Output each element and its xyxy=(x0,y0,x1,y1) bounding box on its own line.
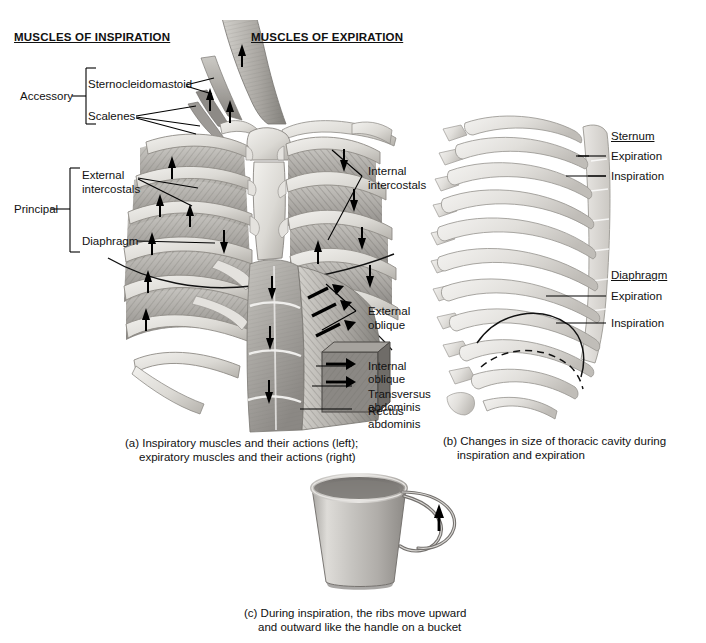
label-diaphragm-title: Diaphragm xyxy=(611,269,667,282)
label-external-intercostals-line2: intercostals xyxy=(82,183,140,196)
label-external-oblique-line1: External xyxy=(368,305,410,318)
caption-panel-a-line1: (a) Inspiratory muscles and their action… xyxy=(125,437,358,449)
rectus-abdominis-muscle xyxy=(247,260,304,432)
label-scalenes: Scalenes xyxy=(88,110,135,123)
label-internal-intercostals-line2: intercostals xyxy=(368,179,426,192)
caption-panel-c-line1: (c) During inspiration, the ribs move up… xyxy=(244,607,466,619)
caption-panel-b-line2: inspiration and expiration xyxy=(443,448,666,462)
caption-panel-c-line2: and outward like the handle on a bucket xyxy=(244,620,466,634)
label-sternum-expiration: Expiration xyxy=(611,150,662,163)
bucket-handle-lower xyxy=(400,496,441,551)
group-label-principal: Principal xyxy=(14,203,58,216)
heading-muscles-of-expiration: MUSCLES OF EXPIRATION xyxy=(251,31,403,43)
caption-panel-a-line2: expiratory muscles and their actions (ri… xyxy=(125,450,358,464)
label-rectus-abdominis-line1: Rectus xyxy=(368,405,404,418)
heading-muscles-of-inspiration: MUSCLES OF INSPIRATION xyxy=(14,31,170,43)
label-external-oblique-line2: oblique xyxy=(368,319,405,332)
label-internal-oblique-line1: Internal xyxy=(368,360,406,373)
label-internal-intercostals-line1: Internal xyxy=(368,165,406,178)
panel-b-illustration xyxy=(425,105,635,435)
label-transversus-abdominis-line1: Transversus xyxy=(368,388,431,401)
label-diaphragm: Diaphragm xyxy=(82,235,138,248)
group-label-accessory: Accessory xyxy=(20,90,73,103)
figure-root: MUSCLES OF INSPIRATION MUSCLES OF EXPIRA… xyxy=(0,0,706,643)
caption-panel-b-line1: (b) Changes in size of thoracic cavity d… xyxy=(443,435,666,447)
label-sternocleidomastoid: Sternocleidomastoid xyxy=(88,78,192,91)
caption-panel-b: (b) Changes in size of thoracic cavity d… xyxy=(443,434,666,462)
caption-panel-a: (a) Inspiratory muscles and their action… xyxy=(125,436,358,464)
label-external-intercostals-line1: External xyxy=(82,169,124,182)
label-diaphragm-inspiration: Inspiration xyxy=(611,317,664,330)
label-sternum-title: Sternum xyxy=(611,130,654,143)
panel-c-illustration xyxy=(288,470,468,590)
label-sternum-inspiration: Inspiration xyxy=(611,170,664,183)
label-internal-oblique-line2: oblique xyxy=(368,373,405,386)
caption-panel-c: (c) During inspiration, the ribs move up… xyxy=(244,606,466,634)
label-diaphragm-expiration: Expiration xyxy=(611,290,662,303)
label-rectus-abdominis-line2: abdominis xyxy=(368,418,420,431)
